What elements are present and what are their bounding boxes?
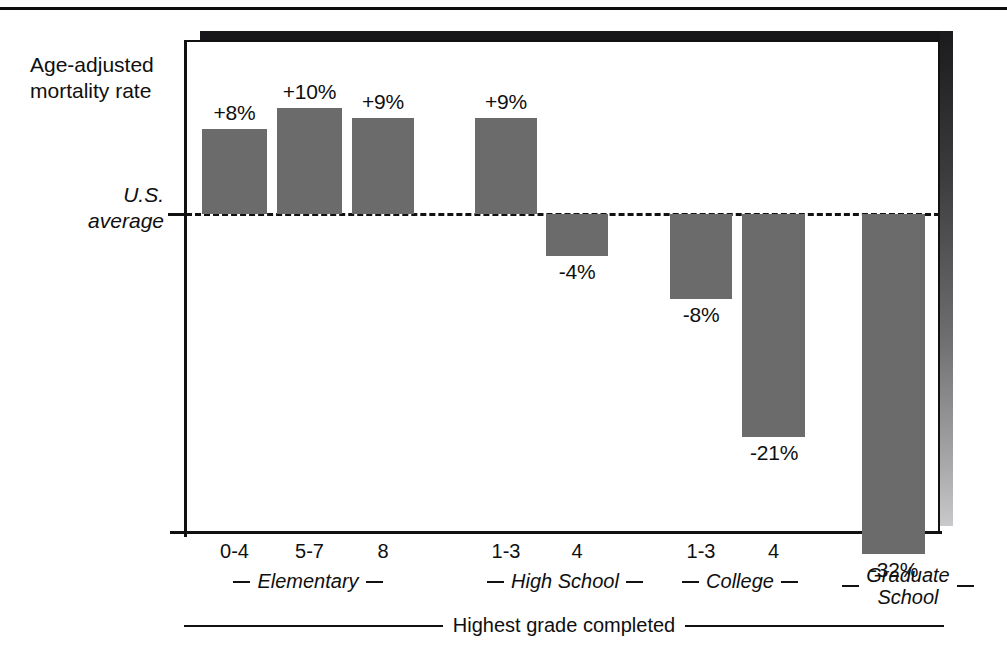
group-rule-left: [233, 581, 250, 583]
axis-title-rule-right: [685, 625, 944, 627]
top-divider-rule: [0, 7, 1007, 10]
group-label-text: GraduateSchool: [866, 564, 949, 608]
x-tick-label-0: 0-4: [202, 540, 267, 563]
bar-value-label-college-4: -21%: [737, 441, 811, 465]
bar-elementary-0-4: [202, 129, 267, 214]
baseline-label: U.S. average: [20, 182, 164, 234]
bar-value-label-college-1-3: -8%: [668, 303, 734, 327]
group-rule-right: [957, 585, 974, 587]
x-axis-title-row: Highest grade completed: [184, 614, 944, 637]
x-tick-label-3: 1-3: [475, 540, 537, 563]
group-rule-right: [781, 581, 798, 583]
bar-value-label-elementary-5-7: +10%: [272, 80, 347, 104]
group-rule-left: [842, 585, 859, 587]
x-axis-title: Highest grade completed: [453, 614, 675, 637]
axis-title-rule-left: [184, 625, 443, 627]
bar-college-4: [742, 214, 805, 437]
x-tick-label-5: 1-3: [670, 540, 732, 563]
bar-value-label-highschool-4: -4%: [544, 260, 610, 284]
bar-value-label-highschool-1-3: +9%: [473, 90, 539, 114]
group-label-line2: School: [877, 586, 938, 608]
group-rule-left: [682, 581, 699, 583]
group-rule-right: [366, 581, 383, 583]
bar-highschool-4: [546, 214, 608, 256]
bar-graduate-school: [862, 214, 925, 554]
x-group-label-2: College: [640, 570, 840, 593]
chart-figure: Age-adjusted mortality rate U.S. average…: [0, 0, 1007, 662]
x-tick-label-4: 4: [546, 540, 608, 563]
bar-value-label-elementary-8: +9%: [350, 90, 416, 114]
bar-college-1-3: [670, 214, 732, 299]
plot-shadow-right: [940, 31, 953, 526]
y-axis-label: Age-adjusted mortality rate: [30, 52, 176, 104]
x-axis-spine: [170, 531, 942, 534]
group-rule-left: [487, 581, 504, 583]
x-group-label-3: GraduateSchool: [818, 564, 998, 608]
group-label-text: High School: [511, 570, 619, 593]
baseline-label-line2: average: [20, 208, 164, 234]
y-axis-spine: [184, 40, 187, 537]
group-label-text: College: [706, 570, 774, 593]
us-average-tick: [168, 213, 188, 216]
x-tick-label-2: 8: [352, 540, 414, 563]
bar-elementary-5-7: [277, 108, 342, 214]
x-tick-label-6: 4: [742, 540, 805, 563]
group-label-line1: Graduate: [866, 564, 949, 586]
baseline-label-line1: U.S.: [20, 182, 164, 208]
bar-elementary-8: [352, 118, 414, 214]
x-group-label-0: Elementary: [198, 570, 418, 593]
group-label-text: Elementary: [257, 570, 358, 593]
bar-highschool-1-3: [475, 118, 537, 214]
bar-value-label-elementary-0-4: +8%: [202, 101, 267, 125]
x-tick-label-1: 5-7: [277, 540, 342, 563]
